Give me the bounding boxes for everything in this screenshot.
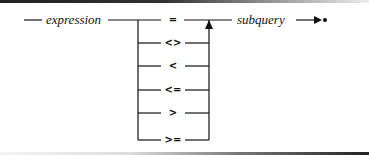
operator-greater-than: > (160, 107, 186, 119)
operator-less-than: < (160, 60, 186, 72)
syntax-diagram: expression subquery = <> < <= > >= (0, 0, 369, 155)
expression-term: expression (46, 13, 101, 27)
end-arrow-icon (314, 16, 322, 24)
operator-equals: = (160, 14, 186, 26)
terminator-dot-icon (323, 18, 327, 22)
operator-greater-equal: >= (160, 134, 186, 146)
operator-less-equal: <= (160, 84, 186, 96)
operator-not-equals: <> (160, 37, 186, 49)
up-arrow-icon (205, 20, 213, 29)
subquery-term: subquery (237, 13, 285, 27)
